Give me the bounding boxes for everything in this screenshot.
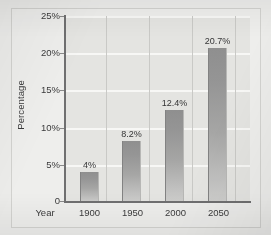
y-tickmark-20 <box>60 53 64 54</box>
y-tick-label-20: 20% <box>28 48 60 58</box>
bar-value-1950: 8.2% <box>112 129 151 139</box>
plot-area: 4% 8.2% 12.4% 20.7% <box>66 16 250 202</box>
category-separator-2 <box>149 16 150 202</box>
y-axis-line <box>64 15 66 203</box>
x-tick-label-1950: 1950 <box>113 207 152 219</box>
x-tick-label-2000: 2000 <box>156 207 195 219</box>
bar-1900[interactable] <box>80 172 99 202</box>
y-tick-label-15: 15% <box>28 85 60 95</box>
y-tickmark-15 <box>60 90 64 91</box>
bar-value-2050: 20.7% <box>197 36 238 46</box>
x-axis-line <box>64 201 251 203</box>
category-separator-1 <box>106 16 107 202</box>
bar-value-1900: 4% <box>70 160 109 170</box>
bar-2000[interactable] <box>165 110 184 202</box>
y-axis-tick-labels: 25% 20% 15% 10% 5% 0 <box>28 0 60 235</box>
y-tickmark-5 <box>60 165 64 166</box>
y-tickmark-10 <box>60 128 64 129</box>
bar-value-2000: 12.4% <box>154 98 195 108</box>
y-tick-label-10: 10% <box>28 123 60 133</box>
y-tick-label-25: 25% <box>28 11 60 21</box>
bar-1950[interactable] <box>122 141 141 202</box>
category-separator-3 <box>192 16 193 202</box>
bar-2050[interactable] <box>208 48 227 202</box>
x-tick-label-1900: 1900 <box>70 207 109 219</box>
y-axis-title: Percentage <box>14 60 28 150</box>
x-tick-label-2050: 2050 <box>199 207 238 219</box>
gridline-25 <box>66 16 250 18</box>
y-tickmark-25 <box>60 16 64 17</box>
x-axis-title: Year <box>24 207 66 219</box>
y-tick-label-0: 0 <box>28 196 60 206</box>
x-axis-tick-labels: Year 1900 1950 2000 2050 <box>0 207 271 223</box>
y-tick-label-5: 5% <box>28 160 60 170</box>
chart-figure: Percentage 25% 20% 15% 10% 5% 0 4% 8.2% … <box>0 0 271 235</box>
